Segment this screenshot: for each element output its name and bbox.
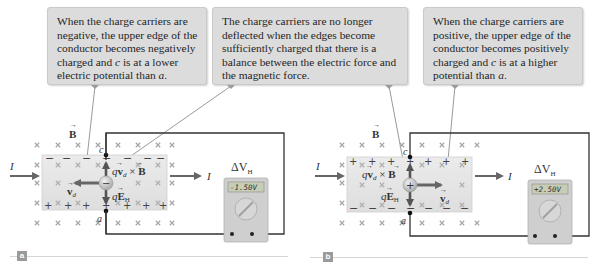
panel-a: −−−−−−− +++++++ I I → B c a − qvd × B → …: [9, 121, 284, 242]
panel-b-separator: [310, 257, 588, 258]
point-a-label: a: [97, 213, 102, 224]
current-label-left: I: [315, 160, 321, 172]
voltmeter: -1.50V: [224, 178, 268, 242]
panel-a-separator: [10, 256, 288, 257]
vector-arrow-icon: →: [116, 159, 123, 167]
svg-text:+: +: [424, 156, 432, 167]
svg-text:+: +: [442, 156, 450, 167]
current-label-right: I: [206, 170, 212, 182]
magnetic-force-label: qvd × B: [112, 165, 146, 179]
svg-text:−: −: [460, 202, 469, 215]
voltmeter: +2.50V: [528, 180, 572, 244]
b-field-label: B: [372, 128, 380, 140]
vector-arrow-icon: →: [440, 186, 447, 194]
terminal-a: [408, 211, 413, 216]
vector-arrow-icon: →: [67, 179, 74, 187]
point-c-label: c: [99, 144, 104, 155]
svg-text:+: +: [461, 156, 469, 167]
panel-b: +++++++ −−−−−−− I I → B c a + qvd × B → …: [315, 121, 589, 244]
vector-arrow-icon: →: [136, 159, 143, 167]
callout-pointer-tips: [91, 85, 459, 89]
current-label-right: I: [507, 170, 513, 182]
svg-text:−: −: [156, 152, 165, 165]
svg-text:+: +: [142, 200, 150, 211]
meter-reading: +2.50V: [534, 185, 562, 194]
wire-bottom: [106, 212, 232, 234]
terminal-c: [408, 155, 413, 160]
current-label-left: I: [9, 160, 15, 172]
vector-arrow-icon: →: [366, 162, 373, 170]
svg-text:+: +: [44, 200, 52, 211]
panel-b-label: b: [323, 252, 333, 262]
panel-a-label: a: [17, 251, 27, 261]
meter-probe-right: [250, 232, 254, 236]
svg-text:−: −: [368, 202, 377, 215]
svg-text:+: +: [159, 200, 167, 211]
svg-text:+: +: [82, 200, 90, 211]
meter-reading: -1.50V: [230, 183, 258, 192]
meter-label: ΔVH: [534, 162, 555, 178]
meter-probe-left: [533, 234, 537, 238]
point-c-label: c: [403, 146, 408, 157]
svg-text:+: +: [64, 200, 72, 211]
vector-arrow-icon: →: [386, 184, 393, 192]
svg-text:−: −: [349, 202, 358, 215]
svg-text:−: −: [143, 152, 152, 165]
svg-text:−: −: [123, 152, 132, 165]
vector-arrow-icon: →: [393, 162, 400, 170]
magnetic-force-label: qvd × B: [362, 168, 396, 182]
svg-text:−: −: [82, 152, 91, 165]
svg-text:+: +: [349, 156, 357, 167]
meter-probe-left: [230, 232, 234, 236]
carrier-sign: +: [406, 180, 414, 191]
meter-label: ΔVH: [231, 160, 252, 176]
svg-text:−: −: [45, 152, 54, 165]
meter-probe-right: [553, 234, 557, 238]
svg-text:−: −: [424, 202, 433, 215]
point-a-label: a: [401, 215, 406, 226]
svg-text:−: −: [62, 152, 71, 165]
carrier-sign: −: [102, 178, 110, 189]
b-field-label: B: [69, 128, 77, 140]
vector-arrow-icon: →: [117, 184, 124, 192]
wire-bottom: [410, 213, 535, 236]
